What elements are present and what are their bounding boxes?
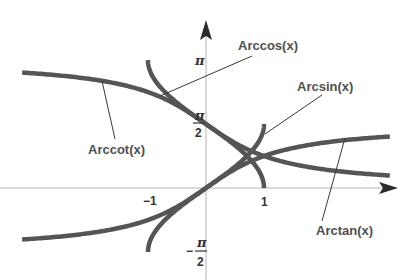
y-tick-pi-half-numerator: π <box>194 108 205 123</box>
x-tick-pos1: 1 <box>261 195 268 209</box>
arctan-label: Arctan(x) <box>316 223 373 238</box>
inverse-trig-chart: Arccos(x) Arcsin(x) Arccot(x) Arctan(x) … <box>0 0 413 280</box>
y-tick-neg-pi-half-numerator: π <box>196 235 207 250</box>
y-tick-neg-sign: − <box>186 244 193 258</box>
arcsin-leader <box>265 95 322 134</box>
arctan-leader <box>322 138 345 221</box>
arccot-leader <box>102 81 115 139</box>
arcsin-label: Arcsin(x) <box>297 79 353 94</box>
arccot-label: Arccot(x) <box>88 142 145 157</box>
x-tick-neg1: −1 <box>143 194 157 208</box>
y-tick-neg-pi-half: − π 2 <box>186 235 207 269</box>
y-tick-pi-half-denominator: 2 <box>195 126 202 140</box>
arccos-label: Arccos(x) <box>238 38 298 53</box>
y-tick-pi: π <box>194 53 205 68</box>
y-tick-neg-pi-half-denominator: 2 <box>197 255 204 269</box>
